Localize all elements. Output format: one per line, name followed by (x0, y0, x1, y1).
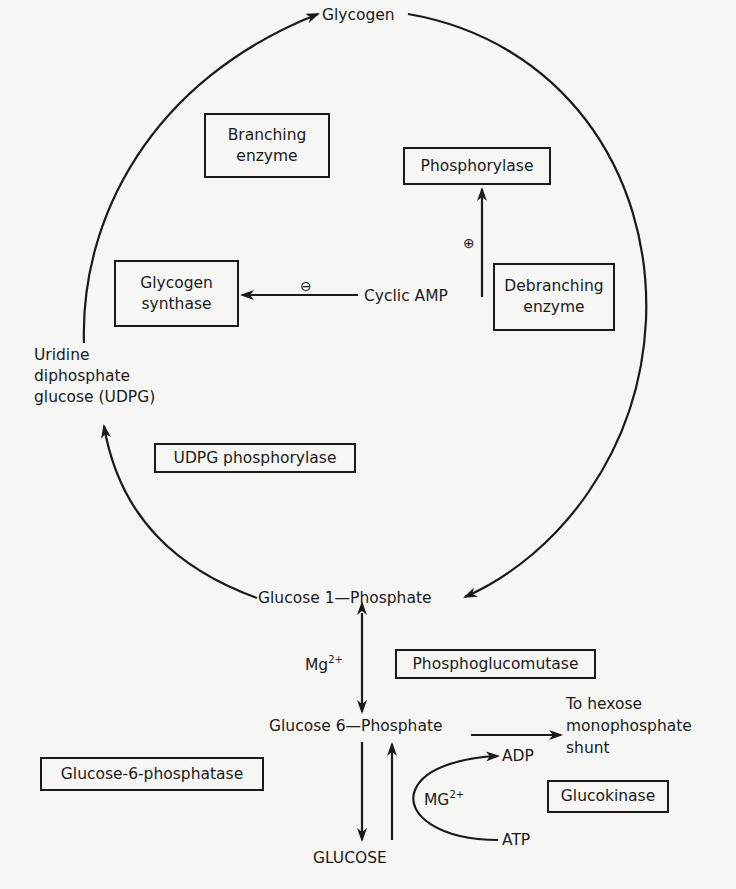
enzyme-branching-line1: Branching (228, 125, 307, 146)
pathway-arrows (0, 0, 736, 889)
node-glucose-6-phosphate: Glucose 6—Phosphate (269, 716, 443, 736)
cofactor-MG-label: MG (424, 791, 449, 809)
node-hmp-line2: monophosphate (566, 716, 692, 736)
cofactor-mg-charge: 2+ (328, 654, 343, 665)
node-udpg-line2: diphosphate (34, 366, 130, 386)
enzyme-udpg-phosphorylase-label: UDPG phosphorylase (174, 448, 337, 469)
node-hmp-line1: To hexose (566, 694, 642, 714)
enzyme-phosphorylase-label: Phosphorylase (421, 156, 534, 177)
enzyme-glucokinase: Glucokinase (547, 780, 669, 813)
enzyme-phosphoglucomutase-label: Phosphoglucomutase (413, 654, 579, 675)
enzyme-synthase-line1: Glycogen (140, 273, 213, 294)
enzyme-phosphorylase: Phosphorylase (403, 147, 551, 185)
enzyme-debranching: Debranching enzyme (493, 263, 615, 331)
node-udpg-line3: glucose (UDPG) (34, 387, 155, 407)
node-glycogen: Glycogen (322, 5, 395, 25)
enzyme-udpg-phosphorylase: UDPG phosphorylase (154, 443, 356, 473)
inhibit-icon: ⊖ (300, 279, 312, 293)
enzyme-synthase-line2: synthase (141, 294, 211, 315)
enzyme-glycogen-synthase: Glycogen synthase (114, 260, 239, 327)
enzyme-debranching-line1: Debranching (504, 276, 603, 297)
node-glucose-1-phosphate: Glucose 1—Phosphate (258, 588, 432, 608)
node-atp: ATP (502, 830, 530, 850)
cofactor-MG-charge: 2+ (449, 789, 464, 800)
cofactor-mg-label: Mg (305, 656, 328, 674)
enzyme-glucokinase-label: Glucokinase (561, 786, 655, 807)
enzyme-branching-line2: enzyme (236, 146, 297, 167)
node-glucose: GLUCOSE (313, 848, 387, 868)
enzyme-glucose-6-phosphatase: Glucose-6-phosphatase (40, 757, 264, 791)
enzyme-branching: Branching enzyme (204, 113, 330, 178)
enzyme-g6pase-label: Glucose-6-phosphatase (61, 764, 243, 785)
node-udpg-line1: Uridine (34, 345, 90, 365)
cofactor-mg: Mg2+ (305, 655, 343, 675)
node-hmp-line3: shunt (566, 738, 610, 758)
activate-icon: ⊕ (463, 236, 475, 250)
cofactor-MG: MG2+ (424, 790, 464, 810)
node-cyclic-amp: Cyclic AMP (364, 286, 448, 306)
node-adp: ADP (502, 746, 534, 766)
enzyme-debranching-line2: enzyme (523, 297, 584, 318)
enzyme-phosphoglucomutase: Phosphoglucomutase (395, 649, 596, 679)
